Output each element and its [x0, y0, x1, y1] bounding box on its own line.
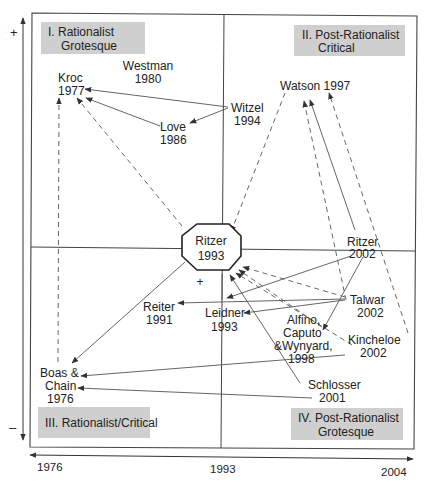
edge-schlosser-boas: [78, 388, 312, 398]
node-alfino-line-2: Caputo: [283, 326, 322, 340]
node-leidner-name: Leidner: [205, 306, 245, 320]
node-westman-year: 1980: [135, 72, 162, 86]
node-kincheloe-name: Kincheloe: [348, 333, 401, 347]
node-boas-chain: Boas & Chain 1976: [40, 366, 79, 406]
node-ritzer-2002-year: 2002: [349, 247, 376, 261]
edge-ritzer2002-leidner: [227, 256, 351, 298]
node-alfino: Alfino, Caputo &Wynyard, 1998: [274, 313, 333, 366]
quadrant-1-line-2: Grotesque: [61, 39, 117, 53]
node-ritzer-1993-name: Ritzer: [195, 234, 226, 248]
node-leidner-year: 1993: [211, 320, 238, 334]
quadrant-2-label: II. Post-Rationalist Critical: [294, 25, 405, 56]
node-boas-line-2: Chain: [45, 379, 76, 393]
quadrant-4-line-1: IV. Post-Rationalist: [298, 411, 400, 425]
edge-witzel-love: [190, 108, 228, 123]
node-leidner: Leidner 1993: [205, 306, 245, 334]
node-westman: Westman 1980: [123, 59, 173, 86]
edge-love-kroc: [86, 98, 160, 126]
quadrant-2-line-2: Critical: [318, 41, 355, 55]
edge-talwar-ritzer1993: [243, 267, 345, 297]
edge-boas-kroc: [58, 98, 59, 362]
vertical-axis: + –: [9, 18, 23, 440]
center-plus-marker: +: [196, 275, 203, 289]
axis-tick-2004: 2004: [381, 466, 407, 478]
node-alfino-line-3: &Wynyard,: [274, 339, 333, 353]
node-love-name: Love: [160, 120, 186, 134]
node-kroc: Kroc 1977: [58, 71, 85, 98]
node-reiter: Reiter 1991: [143, 300, 175, 327]
quadrant-3-label: III. Rationalist/Critical: [38, 407, 158, 438]
quadrant-4-label: IV. Post-Rationalist Grotesque: [291, 408, 403, 440]
axis-plus-sign: +: [10, 25, 18, 40]
node-alfino-line-1: Alfino,: [287, 313, 320, 327]
edge-witzel-kroc: [85, 89, 228, 107]
axis-minus-sign: –: [9, 420, 17, 435]
node-witzel: Witzel 1994: [231, 101, 264, 128]
node-schlosser-name: Schlosser: [308, 378, 361, 392]
node-schlosser-year: 2001: [319, 391, 346, 405]
node-love-year: 1986: [160, 133, 187, 147]
horizontal-axis: 1976 1993 2004: [30, 455, 413, 478]
node-ritzer-1993: Ritzer 1993: [182, 224, 241, 270]
edge-ritzer1993-kroc: [77, 98, 182, 226]
node-reiter-year: 1991: [146, 313, 173, 327]
node-kroc-name: Kroc: [58, 71, 83, 85]
node-boas-line-1: Boas &: [40, 366, 79, 380]
node-boas-line-3: 1976: [47, 392, 74, 406]
quadrant-4-line-2: Grotesque: [318, 425, 374, 439]
node-kroc-year: 1977: [58, 84, 85, 98]
node-watson-label: Watson 1997: [280, 79, 351, 93]
quadrant-1-line-1: I. Rationalist: [48, 25, 115, 39]
edge-ritzer2002-watson: [310, 100, 355, 230]
node-kincheloe-year: 2002: [360, 346, 387, 360]
node-ritzer-1993-year: 1993: [198, 249, 225, 263]
node-witzel-name: Witzel: [231, 101, 264, 115]
node-reiter-name: Reiter: [143, 300, 175, 314]
node-watson: Watson 1997: [280, 79, 351, 93]
quadrant-2-line-1: II. Post-Rationalist: [302, 28, 400, 42]
edge-talwar-reiter: [178, 299, 345, 303]
node-westman-name: Westman: [123, 59, 173, 73]
axis-tick-1993: 1993: [210, 463, 236, 475]
node-schlosser: Schlosser 2001: [308, 378, 361, 405]
node-witzel-year: 1994: [234, 114, 261, 128]
node-talwar: Talwar 2002: [350, 293, 385, 320]
node-love: Love 1986: [160, 120, 187, 147]
node-talwar-year: 2002: [357, 306, 384, 320]
edge-talwar-leidner: [244, 300, 345, 313]
node-talwar-name: Talwar: [350, 293, 385, 307]
node-alfino-line-4: 1998: [288, 352, 315, 366]
diagram-canvas: + – 1976 1993 2004 I. Rationalist Grotes…: [0, 0, 425, 485]
quadrant-3-line-1: III. Rationalist/Critical: [45, 416, 158, 430]
quadrant-1-label: I. Rationalist Grotesque: [41, 22, 145, 54]
axis-tick-1976: 1976: [37, 461, 63, 473]
node-ritzer-2002: Ritzer 2002: [347, 235, 378, 261]
node-kincheloe: Kincheloe 2002: [348, 333, 401, 360]
